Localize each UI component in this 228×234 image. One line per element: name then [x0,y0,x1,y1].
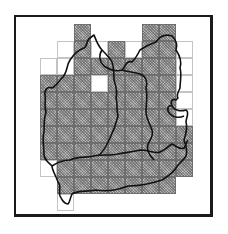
internal-boundary-west [98,50,118,156]
internal-boundary-east [122,70,154,160]
region-boundaries [0,0,228,234]
internal-boundary-south [52,140,188,166]
outer-boundary [43,35,188,204]
